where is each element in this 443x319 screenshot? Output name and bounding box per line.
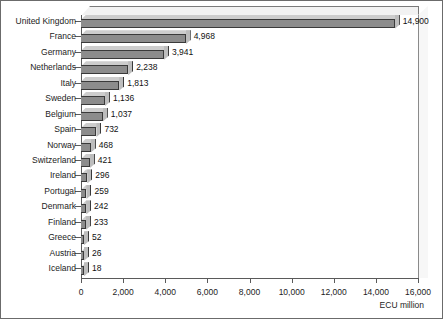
bar-front-face — [81, 189, 86, 198]
x-axis-tick — [334, 278, 335, 283]
bar-group — [81, 123, 102, 138]
plot-3d-corner-edge — [418, 269, 428, 279]
bar-group — [81, 154, 96, 169]
x-axis-tick — [81, 278, 82, 283]
bar-group — [81, 247, 90, 262]
bar-side-face — [84, 247, 89, 261]
bar-front-face — [81, 158, 90, 167]
category-label: Denmark — [42, 202, 76, 211]
category-label: Portugal — [44, 187, 76, 196]
bar-side-face — [90, 154, 95, 168]
x-axis-tick-label: 12,000 — [321, 287, 347, 297]
bar-value-label: 3,941 — [172, 48, 193, 57]
bar-side-face — [86, 200, 91, 214]
bar-value-label: 1,136 — [113, 94, 134, 103]
x-axis-tick — [418, 278, 419, 283]
bar-front-face — [81, 81, 119, 90]
bar-value-label: 14,900 — [403, 17, 429, 26]
x-axis-tick-label: 0 — [79, 287, 84, 297]
bar-value-label: 1,813 — [127, 79, 148, 88]
bar-group — [81, 30, 192, 45]
category-label: Germany — [41, 48, 76, 57]
plot-3d-right-panel — [418, 6, 428, 278]
bar-side-face — [96, 123, 101, 137]
bar-front-face — [81, 34, 186, 43]
bar-side-face — [164, 46, 169, 60]
category-label: United Kingdom — [16, 17, 76, 26]
bar-front-face — [81, 65, 128, 74]
bar-front-face — [81, 96, 105, 105]
bar-value-label: 732 — [104, 125, 118, 134]
x-axis-tick-label: 14,000 — [363, 287, 389, 297]
bar-group — [81, 15, 401, 30]
chart-frame: 14,9004,9683,9412,2381,8131,1361,0377324… — [0, 0, 443, 319]
bar-front-face — [81, 173, 87, 182]
bar-value-label: 18 — [92, 264, 101, 273]
x-axis-tick — [292, 278, 293, 283]
bar-side-face — [86, 216, 91, 230]
bar-group — [81, 77, 125, 92]
x-axis-tick-label: 16,000 — [405, 287, 431, 297]
bar-front-face — [81, 50, 164, 59]
bar-value-label: 4,968 — [194, 32, 215, 41]
bar-group — [81, 185, 92, 200]
bar-front-face — [81, 127, 96, 136]
bar-side-face — [84, 231, 89, 245]
category-label: Iceland — [49, 264, 76, 273]
x-axis-tick — [123, 278, 124, 283]
category-label: Norway — [47, 141, 76, 150]
bar-value-label: 242 — [94, 202, 108, 211]
bar-group — [81, 92, 111, 107]
x-axis-tick — [376, 278, 377, 283]
x-axis-tick-label: 8,000 — [239, 287, 260, 297]
bar-group — [81, 169, 93, 184]
bar-front-face — [81, 143, 91, 152]
bar-value-label: 26 — [92, 249, 101, 258]
bar-side-face — [395, 15, 400, 29]
category-label: Greece — [48, 233, 76, 242]
bar-front-face — [81, 19, 395, 28]
bar-front-face — [81, 220, 86, 229]
bar-value-label: 296 — [95, 171, 109, 180]
bar-group — [81, 216, 92, 231]
bar-front-face — [81, 204, 86, 213]
bar-group — [81, 61, 134, 76]
bar-side-face — [119, 77, 124, 91]
bar-side-face — [105, 92, 110, 106]
x-axis-tick-label: 10,000 — [279, 287, 305, 297]
category-label: Belgium — [45, 110, 76, 119]
x-axis-tick — [207, 278, 208, 283]
bar-front-face — [81, 266, 84, 275]
category-label: Switzerland — [32, 156, 76, 165]
x-axis-tick-label: 2,000 — [112, 287, 133, 297]
bar-value-label: 2,238 — [136, 63, 157, 72]
category-label: Sweden — [45, 94, 76, 103]
category-label: Austria — [50, 249, 76, 258]
x-axis-tick — [250, 278, 251, 283]
bar-side-face — [186, 30, 191, 44]
bar-value-label: 1,037 — [111, 110, 132, 119]
bar-side-face — [91, 139, 96, 153]
bar-value-label: 259 — [94, 187, 108, 196]
x-axis-tick — [165, 278, 166, 283]
bar-side-face — [87, 169, 92, 183]
bar-side-face — [86, 185, 91, 199]
bar-group — [81, 231, 90, 246]
bar-side-face — [84, 262, 89, 276]
category-label: Spain — [54, 125, 76, 134]
bar-group — [81, 200, 92, 215]
bar-front-face — [81, 235, 84, 244]
bar-group — [81, 108, 109, 123]
bar-front-face — [81, 251, 84, 260]
category-label: Italy — [60, 79, 76, 88]
bar-value-label: 468 — [99, 141, 113, 150]
bar-group — [81, 46, 170, 61]
bar-group — [81, 262, 90, 277]
bar-value-label: 233 — [94, 218, 108, 227]
x-axis-tick-label: 6,000 — [197, 287, 218, 297]
category-label: Ireland — [50, 171, 76, 180]
bar-value-label: 52 — [92, 233, 101, 242]
category-label: Netherlands — [30, 63, 76, 72]
x-axis-tick-label: 4,000 — [155, 287, 176, 297]
bar-front-face — [81, 112, 103, 121]
